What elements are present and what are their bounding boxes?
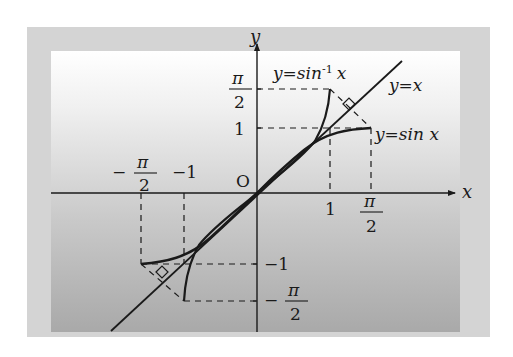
x-axis-label: x	[462, 181, 472, 202]
y-tick-1: 1	[234, 119, 245, 139]
right-angle-icon	[156, 98, 355, 278]
x-tick-neg-pi-over-2: − π 2	[112, 152, 157, 195]
origin-label: O	[236, 171, 250, 191]
svg-text:π: π	[287, 280, 300, 300]
svg-text:π: π	[136, 152, 149, 172]
svg-text:2: 2	[234, 92, 245, 112]
label-arcsin: y=sin-1x	[272, 63, 347, 83]
y-tick-pi-over-2: π 2	[229, 68, 252, 112]
x-tick-neg-1: −1	[172, 162, 197, 182]
svg-text:2: 2	[366, 216, 377, 236]
label-sin: y=sin x	[374, 124, 439, 144]
svg-text:π: π	[231, 68, 244, 88]
svg-text:2: 2	[290, 304, 301, 324]
y-tick-neg-1: −1	[264, 254, 289, 274]
svg-text:π: π	[363, 191, 376, 211]
svg-text:−: −	[264, 290, 278, 310]
label-y-equals-x: y=x	[388, 75, 423, 95]
svg-text:2: 2	[139, 175, 150, 195]
y-axis-label: y	[249, 26, 261, 47]
x-tick-1: 1	[325, 199, 336, 219]
svg-text:−: −	[112, 162, 126, 182]
y-tick-neg-pi-over-2: − π 2	[264, 280, 308, 324]
x-tick-pi-over-2: π 2	[360, 191, 383, 236]
function-graph: y x O π 2 1 −1 − π 2 1 π 2 −1 − π 2 y=si…	[0, 0, 513, 357]
